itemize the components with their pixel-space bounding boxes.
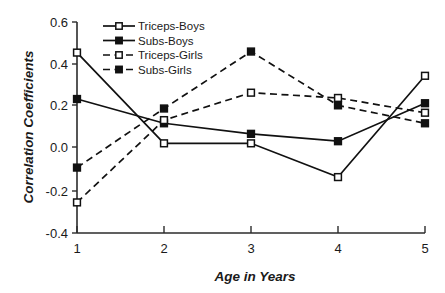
- y-tick-label: 0.0: [50, 140, 68, 155]
- data-point-marker: [422, 109, 429, 116]
- y-tick-label: -0.2: [46, 184, 68, 199]
- x-tick-label: 5: [421, 241, 428, 256]
- data-point-marker: [422, 100, 429, 107]
- data-point-marker: [74, 49, 81, 56]
- chart-legend: Triceps-BoysSubs-BoysTriceps-GirlsSubs-G…: [103, 20, 205, 76]
- x-tick-label: 3: [247, 241, 254, 256]
- legend-label: Subs-Girls: [138, 64, 192, 76]
- series-subs-boys: [74, 96, 429, 145]
- legend-item-triceps-boys[interactable]: Triceps-Boys: [103, 20, 205, 32]
- chart-figure: 0.6 0.4 0.2 0.0 -0.2 -0.4 1 2 3 4 5 Corr…: [0, 0, 445, 293]
- chart-series-layer: [74, 48, 429, 206]
- series-triceps-girls: [74, 89, 429, 206]
- data-point-marker: [335, 138, 342, 145]
- line-chart-canvas: 0.6 0.4 0.2 0.0 -0.2 -0.4 1 2 3 4 5 Corr…: [0, 0, 445, 293]
- x-axis-tick-labels: 1 2 3 4 5: [73, 241, 428, 256]
- y-tick-label: 0.4: [50, 57, 68, 72]
- data-point-marker: [248, 140, 255, 147]
- data-point-marker: [248, 89, 255, 96]
- x-tick-label: 2: [160, 241, 167, 256]
- data-point-marker: [422, 120, 429, 127]
- legend-item-triceps-girls[interactable]: Triceps-Girls: [103, 49, 203, 61]
- legend-label: Triceps-Girls: [138, 49, 203, 61]
- legend-item-subs-boys[interactable]: Subs-Boys: [103, 35, 194, 47]
- series-line: [77, 53, 425, 177]
- y-axis-tick-labels: 0.6 0.4 0.2 0.0 -0.2 -0.4: [46, 15, 68, 241]
- legend-marker-sample: [116, 37, 122, 43]
- y-tick-label: 0.6: [50, 15, 68, 30]
- data-point-marker: [74, 96, 81, 103]
- data-point-marker: [161, 140, 168, 147]
- legend-marker-sample: [116, 52, 122, 58]
- data-point-marker: [248, 48, 255, 55]
- legend-marker-sample: [116, 23, 122, 29]
- x-axis-title: Age in Years: [213, 269, 296, 284]
- y-tick-label: 0.2: [50, 98, 68, 113]
- data-point-marker: [248, 130, 255, 137]
- data-point-marker: [74, 199, 81, 206]
- legend-item-subs-girls[interactable]: Subs-Girls: [103, 64, 192, 76]
- series-subs-girls: [74, 48, 429, 171]
- data-point-marker: [161, 105, 168, 112]
- legend-label: Triceps-Boys: [138, 20, 205, 32]
- data-point-marker: [335, 174, 342, 181]
- data-point-marker: [335, 102, 342, 109]
- y-axis-title: Correlation Coefficients: [21, 50, 36, 203]
- data-point-marker: [161, 117, 168, 124]
- y-tick-label: -0.4: [46, 226, 68, 241]
- data-point-marker: [422, 72, 429, 79]
- series-line: [77, 93, 425, 203]
- legend-label: Subs-Boys: [138, 35, 194, 47]
- x-tick-label: 1: [73, 241, 80, 256]
- x-tick-label: 4: [334, 241, 341, 256]
- legend-marker-sample: [116, 66, 122, 72]
- data-point-marker: [74, 164, 81, 171]
- data-point-marker: [335, 95, 342, 102]
